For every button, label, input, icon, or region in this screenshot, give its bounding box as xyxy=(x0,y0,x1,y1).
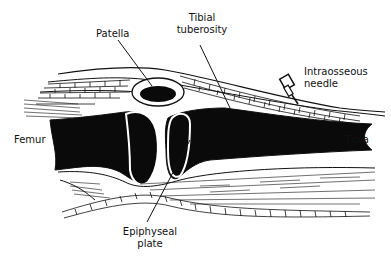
tibial-tuberosity-leader xyxy=(200,45,230,108)
tibial-tuberosity-label: Tibial tuberosity xyxy=(172,12,232,36)
lower-periosteum-pattern xyxy=(62,192,370,218)
epiphyseal-plate-label: Epiphyseal plate xyxy=(115,226,185,250)
tibia-bone xyxy=(165,108,372,179)
patella-label: Patella xyxy=(96,28,129,40)
intraosseous-needle xyxy=(280,74,298,104)
patella-bone xyxy=(140,86,176,102)
knee-anatomy-illustration xyxy=(0,0,391,262)
tibial-tuberosity-label-line1: Tibial xyxy=(172,12,232,24)
intraosseous-needle-label-line1: Intraosseous xyxy=(304,66,368,78)
intraosseous-needle-label-line2: needle xyxy=(304,78,368,90)
knee-diagram: Patella Tibial tuberosity Intraosseous n… xyxy=(0,0,391,262)
tibial-tuberosity-label-line2: tuberosity xyxy=(172,24,232,36)
intraosseous-needle-label: Intraosseous needle xyxy=(304,66,368,90)
patella-leader xyxy=(118,40,152,86)
epiphyseal-plate-label-line1: Epiphyseal xyxy=(115,226,185,238)
femur-label: Femur xyxy=(14,134,46,146)
epiphyseal-plate-label-line2: plate xyxy=(115,238,185,250)
tibia-label: Tibia xyxy=(345,134,369,146)
